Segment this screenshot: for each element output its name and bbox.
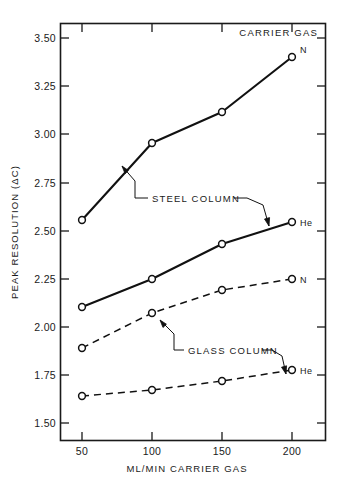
arrowhead-glass-he <box>282 366 287 374</box>
series-markers-glass-he <box>79 367 296 400</box>
x-axis-title: ML/MIN CARRIER GAS <box>126 463 247 474</box>
plot-frame <box>61 24 326 441</box>
series-line-steel-he <box>82 222 292 307</box>
series-endpoint-label-glass-he: He <box>300 366 312 376</box>
y-tick-label: 2.25 <box>34 273 56 285</box>
y-axis-ticks-right <box>317 38 326 423</box>
y-tick-label: 2.75 <box>34 177 56 189</box>
line-chart-svg: 3.50 3.25 3.00 2.75 2.50 2.25 2.00 1.75 … <box>0 0 348 478</box>
y-tick-label: 3.25 <box>34 80 56 92</box>
arrowhead-glass-n <box>160 320 166 328</box>
annotation-steel-column: STEEL COLUMN <box>122 166 270 226</box>
x-tick-label: 50 <box>76 445 88 457</box>
y-tick-labels: 3.50 3.25 3.00 2.75 2.50 2.25 2.00 1.75 … <box>34 32 56 429</box>
y-tick-label: 2.50 <box>34 225 56 237</box>
arrowhead-steel-he <box>265 218 270 226</box>
y-tick-label: 3.50 <box>34 32 56 44</box>
annotation-glass-column: GLASS COLUMN <box>160 320 287 374</box>
y-axis-title: PEAK RESOLUTION (ΔC) <box>9 165 20 299</box>
chart-figure: 3.50 3.25 3.00 2.75 2.50 2.25 2.00 1.75 … <box>0 0 348 478</box>
series-endpoint-label-glass-n: N <box>300 275 307 285</box>
y-tick-label: 2.00 <box>34 321 56 333</box>
series-markers-glass-n <box>79 276 296 352</box>
x-tick-label: 200 <box>283 445 301 457</box>
series-endpoint-label-steel-n: N <box>300 45 307 55</box>
x-tick-labels: 50 100 150 200 <box>76 445 301 457</box>
y-tick-label: 3.00 <box>34 128 56 140</box>
y-tick-label: 1.75 <box>34 369 56 381</box>
y-axis-ticks <box>61 38 70 423</box>
x-tick-label: 150 <box>213 445 231 457</box>
y-tick-label: 1.50 <box>34 417 56 429</box>
annotation-label-steel-column: STEEL COLUMN <box>152 193 240 204</box>
series-endpoint-label-steel-he: He <box>300 218 312 228</box>
series-line-glass-n <box>82 279 292 348</box>
legend-title: CARRIER GAS <box>239 27 318 38</box>
series-line-glass-he <box>82 370 292 396</box>
series-markers-steel-he <box>79 219 296 311</box>
x-tick-label: 100 <box>143 445 161 457</box>
